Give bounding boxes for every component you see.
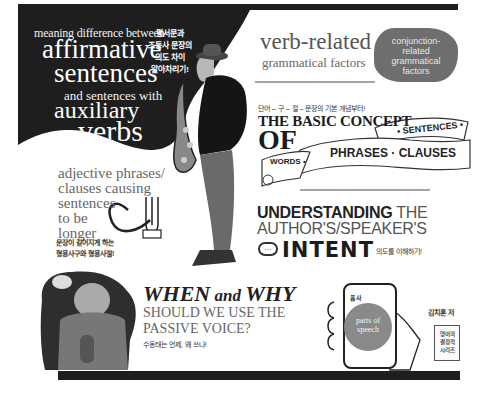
verbs-title: verbs	[78, 116, 143, 146]
adjective-phrases-title: adjective phrases/ clauses causing sente…	[58, 166, 168, 241]
passive-voice-question: SHOULD WE USE THE PASSIVE VOICE?	[143, 305, 285, 337]
affirmative-korean: 평서문과 조동사 문장의 의도 차이 알아차리기!	[138, 28, 202, 76]
bottom-border-bar	[58, 371, 460, 380]
author-name: 김치훈 저	[428, 307, 454, 317]
of-label: OF	[258, 126, 297, 154]
banner-words: WORDS •	[270, 157, 306, 166]
conjunction-label: conjunction- related grammatical factors	[376, 36, 456, 76]
book-series-label: 영어의 결정적 시리즈	[435, 330, 459, 354]
basic-concept-korean: 단어 – 구 – 절 – 문장의 기본 개념부터!	[258, 103, 365, 113]
speech-bubble-icon: ···	[258, 242, 278, 256]
parts-of-speech-label: parts of speech	[344, 316, 392, 334]
author-speaker-label: AUTHOR'S/SPEAKER'S	[257, 220, 427, 238]
when-and-why-title: WHEN and WHY	[143, 283, 295, 307]
intent-korean: 의도를 이해하기!	[376, 246, 422, 256]
banner-phrases-clauses: PHRASES · CLAUSES	[330, 146, 456, 160]
intent-title: INTENT	[282, 238, 374, 262]
phone-label: 품사	[350, 293, 362, 302]
adjective-korean: 문장이 길어지게 하는 형용사구와 형용사절!	[56, 237, 114, 259]
verb-related-title: verb-related	[260, 30, 371, 54]
passive-korean: 수동태는 언제, 왜 쓰나!	[143, 339, 207, 349]
grammatical-factors-subtitle: grammatical factors	[262, 55, 366, 71]
